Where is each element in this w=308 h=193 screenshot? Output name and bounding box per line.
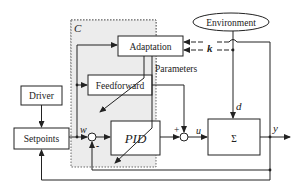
parameters-label: Parameters <box>155 64 198 74</box>
y-label: y <box>272 122 278 134</box>
controller-label: C <box>74 22 82 34</box>
plus-sign: + <box>174 125 179 135</box>
d-label: d <box>236 100 242 112</box>
k-label: k <box>207 42 213 54</box>
setpoints-label: Setpoints <box>24 134 60 144</box>
minus-sign: - <box>96 141 99 151</box>
control-summing-junction <box>180 133 188 141</box>
control-diagram: C Environment Adaptation Feedforward Dri… <box>0 0 308 193</box>
w-label: w <box>80 124 87 135</box>
driver-label: Driver <box>29 91 55 101</box>
adaptation-label: Adaptation <box>129 42 171 52</box>
u-label: u <box>196 125 201 136</box>
environment-label: Environment <box>206 18 256 28</box>
feedforward-label: Feedforward <box>96 81 145 91</box>
plant-label: Σ <box>231 134 237 144</box>
error-summing-junction <box>88 133 96 141</box>
